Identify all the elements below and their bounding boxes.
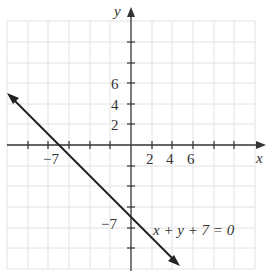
y-axis-arrow-icon	[127, 7, 135, 17]
y-tick-label-neg7: −7	[101, 216, 117, 232]
coordinate-plane: y x −7 2 4 6 6 4 2 −7 x + y + 7 = 0	[0, 0, 267, 277]
x-axis-label: x	[255, 150, 263, 166]
y-axis-label: y	[112, 3, 121, 19]
y-tick-label-2: 2	[111, 117, 119, 133]
x-tick-label-2: 2	[146, 151, 154, 167]
x-tick-label-4: 4	[166, 151, 174, 167]
equation-label: x + y + 7 = 0	[152, 222, 235, 238]
y-tick-label-4: 4	[111, 97, 119, 113]
x-axis-arrow-icon	[256, 141, 266, 149]
x-tick-label-neg7: −7	[43, 151, 59, 167]
y-tick-label-6: 6	[111, 76, 119, 92]
line-series	[7, 93, 180, 266]
x-tick-label-6: 6	[187, 151, 195, 167]
line-x-plus-y-plus-7	[12, 98, 175, 261]
